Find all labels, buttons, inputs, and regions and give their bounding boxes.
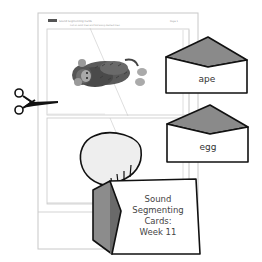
cover-title-line2: Segmenting (132, 205, 183, 215)
cover-title-line3: Cards: (144, 216, 171, 226)
card-word: egg (200, 142, 217, 152)
scene: Sound Segmenting Cards Cut on solid line… (0, 0, 262, 262)
card-word: ape (199, 74, 216, 84)
worksheet-header-badge (48, 19, 57, 22)
cover-title-line4: Week 11 (140, 227, 177, 237)
worksheet-header-title: Sound Segmenting Cards (59, 20, 93, 23)
cover-title-line1: Sound (145, 194, 172, 204)
worksheet-header-subtitle: Cut on solid lines and fold along dashed… (70, 24, 120, 27)
worksheet-page-number: Page 1 (170, 20, 179, 23)
